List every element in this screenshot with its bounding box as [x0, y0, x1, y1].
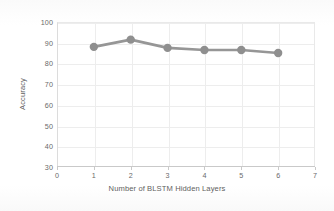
x-axis-tick-mark: [241, 167, 242, 170]
x-axis-tick-label: 1: [92, 171, 96, 180]
y-axis-tick-label: 80: [45, 59, 53, 68]
y-axis-tick-label: 100: [41, 18, 53, 27]
x-axis-tick-mark: [315, 167, 316, 170]
y-axis-tick-label: 70: [45, 80, 53, 89]
x-axis-tick-mark: [94, 167, 95, 170]
x-axis-tick-mark: [131, 167, 132, 170]
x-axis-tick-mark: [278, 167, 279, 170]
x-axis-tick-label: 6: [276, 171, 280, 180]
y-axis-tick-label: 50: [45, 121, 53, 130]
series-polyline: [94, 40, 278, 53]
x-axis-tick-label: 4: [202, 171, 206, 180]
data-point-marker: [163, 44, 171, 52]
x-axis-tick-label: 7: [313, 171, 317, 180]
data-point-marker: [200, 46, 208, 54]
data-point-marker: [237, 46, 245, 54]
x-axis-tick-label: 5: [239, 171, 243, 180]
y-axis-tick-label: 40: [45, 142, 53, 151]
x-axis-tick-mark: [57, 167, 58, 170]
y-axis-title: Accuracy: [18, 78, 27, 110]
y-axis-tick-labels: 30405060708090100: [36, 0, 53, 211]
y-axis-tick-label: 30: [45, 163, 53, 172]
data-point-marker: [90, 43, 98, 51]
chart-container: 30405060708090100 01234567 Number of BLS…: [0, 0, 334, 211]
x-axis-tick-mark: [168, 167, 169, 170]
x-axis-title: Number of BLSTM Hidden Layers: [0, 184, 334, 193]
x-axis-tick-mark: [204, 167, 205, 170]
x-axis-tick-label: 3: [166, 171, 170, 180]
x-axis-tick-label: 2: [129, 171, 133, 180]
data-point-marker: [127, 35, 135, 43]
data-point-marker: [274, 49, 282, 57]
y-axis-tick-label: 60: [45, 100, 53, 109]
y-axis-tick-label: 90: [45, 38, 53, 47]
data-series-line: [57, 22, 315, 167]
x-axis-tick-label: 0: [55, 171, 59, 180]
